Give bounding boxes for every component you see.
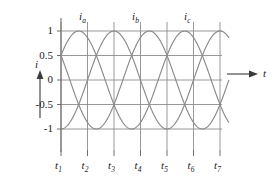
x-tick-marks — [61, 150, 220, 156]
curve-label-ib-sub: b — [135, 16, 139, 25]
x-tick-label-t1: t1 — [55, 160, 62, 171]
x-tick-label-t5-sub: 5 — [164, 165, 168, 174]
figure-canvas: 1 0.5 0 -0.5 -1 i t t1 t2 t3 t4 t5 t6 t7… — [0, 0, 276, 184]
curve-label-ia-sub: a — [82, 16, 86, 25]
x-tick-label-t4: t4 — [135, 160, 142, 171]
x-tick-label-t3: t3 — [108, 160, 115, 171]
x-tick-label-t7-sub: 7 — [217, 165, 221, 174]
curve-label-ia: ia — [79, 11, 86, 22]
x-tick-label-t1-sub: 1 — [58, 165, 62, 174]
y-tick-label-0p5: 0.5 — [26, 50, 53, 61]
curve-label-ic: ic — [184, 11, 190, 22]
y-axis-label: i — [35, 59, 38, 70]
curve-label-ib: ib — [132, 11, 139, 22]
y-tick-label-1: 1 — [26, 25, 53, 36]
curve-label-ic-sub: c — [187, 16, 190, 25]
x-tick-label-t2: t2 — [82, 160, 89, 171]
x-tick-label-t7: t7 — [214, 160, 221, 171]
x-tick-label-t6-sub: 6 — [191, 165, 195, 174]
x-tick-label-t5: t5 — [161, 160, 168, 171]
x-tick-label-t2-sub: 2 — [85, 165, 89, 174]
x-tick-label-t3-sub: 3 — [111, 165, 115, 174]
y-tick-label-neg1: -1 — [19, 123, 53, 134]
x-axis-label: t — [263, 68, 266, 79]
x-tick-label-t4-sub: 4 — [138, 165, 142, 174]
y-tick-marks — [57, 31, 61, 129]
t-direction-arrow — [227, 71, 258, 78]
y-tick-label-0: 0 — [26, 74, 53, 85]
y-tick-label-neg0p5: -0.5 — [19, 99, 53, 110]
x-tick-label-t6: t6 — [188, 160, 195, 171]
